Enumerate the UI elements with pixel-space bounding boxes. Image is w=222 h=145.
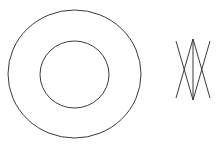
background <box>0 0 222 145</box>
diagram-canvas <box>0 0 222 145</box>
